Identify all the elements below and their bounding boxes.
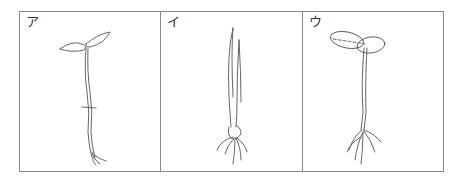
seedling-b-illustration <box>161 12 303 173</box>
seedling-c-illustration <box>303 12 444 173</box>
seedling-a-illustration <box>20 12 160 173</box>
panel-c: ウ <box>302 12 443 171</box>
panel-b: イ <box>160 12 302 171</box>
panel-a: ア <box>20 12 160 171</box>
seedling-figure: ア イ ウ <box>19 11 444 172</box>
